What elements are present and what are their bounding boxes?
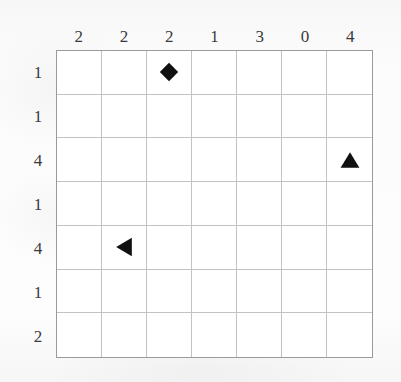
puzzle-grid[interactable] bbox=[56, 50, 373, 358]
grid-cell-r6c5[interactable] bbox=[237, 270, 282, 314]
grid-cell-r3c6[interactable] bbox=[282, 138, 327, 182]
column-header-7: 4 bbox=[328, 22, 373, 50]
grid-cell-r1c1[interactable] bbox=[57, 51, 102, 95]
row-header-1: 1 bbox=[22, 50, 54, 94]
row-header-3: 4 bbox=[22, 138, 54, 182]
row-header-6: 1 bbox=[22, 270, 54, 314]
grid-cell-r2c7[interactable] bbox=[327, 95, 372, 139]
row-header-column: 1 1 4 1 4 1 2 bbox=[22, 50, 54, 358]
grid-cell-r2c5[interactable] bbox=[237, 95, 282, 139]
grid-cell-r1c6[interactable] bbox=[282, 51, 327, 95]
grid-cell-r7c6[interactable] bbox=[282, 313, 327, 357]
grid-cell-r6c7[interactable] bbox=[327, 270, 372, 314]
grid-cell-r5c7[interactable] bbox=[327, 226, 372, 270]
grid-cell-r5c5[interactable] bbox=[237, 226, 282, 270]
grid-cell-r7c1[interactable] bbox=[57, 313, 102, 357]
grid-cell-r2c3[interactable] bbox=[147, 95, 192, 139]
column-header-2: 2 bbox=[101, 22, 146, 50]
grid-cell-r7c3[interactable] bbox=[147, 313, 192, 357]
grid-cell-r3c1[interactable] bbox=[57, 138, 102, 182]
grid-cell-r5c3[interactable] bbox=[147, 226, 192, 270]
grid-cell-r2c2[interactable] bbox=[102, 95, 147, 139]
grid-cell-r4c4[interactable] bbox=[192, 182, 237, 226]
column-header-3: 2 bbox=[147, 22, 192, 50]
diamond-marker-icon bbox=[158, 61, 180, 83]
column-header-4: 1 bbox=[192, 22, 237, 50]
grid-cell-r3c3[interactable] bbox=[147, 138, 192, 182]
grid-cell-r6c6[interactable] bbox=[282, 270, 327, 314]
grid-cell-r5c6[interactable] bbox=[282, 226, 327, 270]
grid-cell-r1c5[interactable] bbox=[237, 51, 282, 95]
grid-cell-r5c1[interactable] bbox=[57, 226, 102, 270]
grid-cell-r4c3[interactable] bbox=[147, 182, 192, 226]
grid-cell-r2c4[interactable] bbox=[192, 95, 237, 139]
grid-puzzle: 2 2 2 1 3 0 4 1 1 4 1 4 1 2 bbox=[0, 0, 401, 382]
grid-cell-r7c4[interactable] bbox=[192, 313, 237, 357]
grid-cell-r6c1[interactable] bbox=[57, 270, 102, 314]
row-header-7: 2 bbox=[22, 314, 54, 358]
triangle-left-marker-icon bbox=[113, 236, 135, 258]
grid-cell-r3c5[interactable] bbox=[237, 138, 282, 182]
row-header-5: 4 bbox=[22, 226, 54, 270]
grid-cell-r5c4[interactable] bbox=[192, 226, 237, 270]
grid-cell-r5c2[interactable] bbox=[102, 226, 147, 270]
column-header-1: 2 bbox=[56, 22, 101, 50]
column-header-5: 3 bbox=[237, 22, 282, 50]
row-header-4: 1 bbox=[22, 182, 54, 226]
triangle-up-marker-icon bbox=[339, 149, 361, 171]
grid-cell-r6c4[interactable] bbox=[192, 270, 237, 314]
grid-cell-r7c7[interactable] bbox=[327, 313, 372, 357]
grid-cell-r4c5[interactable] bbox=[237, 182, 282, 226]
grid-cell-r4c7[interactable] bbox=[327, 182, 372, 226]
grid-cell-r2c1[interactable] bbox=[57, 95, 102, 139]
row-header-2: 1 bbox=[22, 94, 54, 138]
grid-cell-r3c4[interactable] bbox=[192, 138, 237, 182]
grid-cell-r1c7[interactable] bbox=[327, 51, 372, 95]
grid-cell-r4c1[interactable] bbox=[57, 182, 102, 226]
column-header-6: 0 bbox=[282, 22, 327, 50]
grid-cell-r1c4[interactable] bbox=[192, 51, 237, 95]
grid-cell-r1c2[interactable] bbox=[102, 51, 147, 95]
grid-cell-r7c2[interactable] bbox=[102, 313, 147, 357]
grid-cell-r6c3[interactable] bbox=[147, 270, 192, 314]
column-header-row: 2 2 2 1 3 0 4 bbox=[56, 22, 373, 50]
grid-cell-r4c6[interactable] bbox=[282, 182, 327, 226]
grid-cell-r6c2[interactable] bbox=[102, 270, 147, 314]
grid-cell-r2c6[interactable] bbox=[282, 95, 327, 139]
grid-cell-r7c5[interactable] bbox=[237, 313, 282, 357]
grid-cell-r4c2[interactable] bbox=[102, 182, 147, 226]
grid-cell-r1c3[interactable] bbox=[147, 51, 192, 95]
grid-cell-r3c2[interactable] bbox=[102, 138, 147, 182]
grid-cell-r3c7[interactable] bbox=[327, 138, 372, 182]
